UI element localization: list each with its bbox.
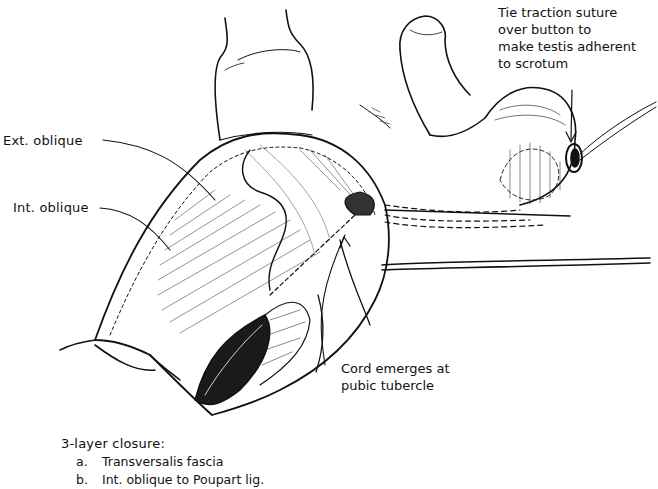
traction-note-line-3: make testis adherent bbox=[498, 38, 636, 55]
closure-item-letter: a. bbox=[76, 454, 102, 470]
label-cord-note: Cord emerges at pubic tubercle bbox=[341, 360, 450, 394]
button-with-traction-suture bbox=[566, 90, 656, 172]
leader-lines bbox=[100, 140, 350, 365]
spermatic-cord bbox=[270, 192, 545, 295]
cord-note-line-2: pubic tubercle bbox=[341, 377, 450, 394]
closure-item-a: a.Transversalis fascia bbox=[76, 454, 223, 470]
label-traction-note: Tie traction suture over button to make … bbox=[498, 4, 636, 72]
closure-item-text: Int. oblique to Poupart lig. bbox=[102, 472, 264, 487]
scrotum-with-testis bbox=[430, 87, 576, 205]
label-int-oblique: Int. oblique bbox=[13, 200, 89, 216]
traction-note-line-1: Tie traction suture bbox=[498, 4, 636, 21]
penis bbox=[360, 16, 470, 135]
closure-item-letter: b. bbox=[76, 472, 102, 488]
traction-note-line-4: to scrotum bbox=[498, 55, 636, 72]
cord-note-line-1: Cord emerges at bbox=[341, 360, 450, 377]
label-ext-oblique: Ext. oblique bbox=[3, 133, 83, 149]
upper-retracted-flap bbox=[215, 10, 313, 140]
closure-title: 3-layer closure: bbox=[61, 436, 165, 452]
ext-oblique-flap-edge bbox=[243, 150, 287, 290]
lower-wound bbox=[195, 302, 310, 404]
closure-item-text: Transversalis fascia bbox=[102, 454, 223, 469]
closure-item-b: b.Int. oblique to Poupart lig. bbox=[76, 472, 264, 488]
surgical-illustration bbox=[0, 0, 658, 489]
traction-note-line-2: over button to bbox=[498, 21, 636, 38]
suture-needle bbox=[316, 240, 370, 372]
muscle-hatching bbox=[158, 145, 365, 333]
